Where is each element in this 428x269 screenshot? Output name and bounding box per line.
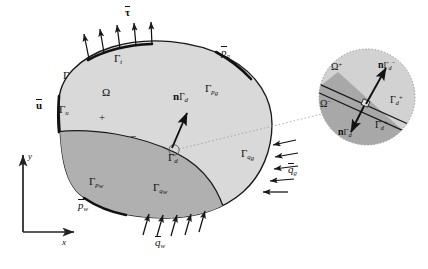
traction-load-label: τ [125, 6, 130, 18]
x-axis-label: x [62, 238, 66, 247]
inset-face-plus-label: Γd+ [390, 95, 402, 106]
water-pressure-load-label: pw [78, 199, 88, 213]
minus-side-label: − [130, 131, 136, 142]
discontinuity-label: Γd [168, 152, 178, 165]
displacement-load-label: u [36, 99, 42, 111]
inset-face-minus-label: Γd+ [375, 120, 387, 131]
water-flux-load-label: qw [155, 236, 165, 250]
plus-side-label: + [99, 112, 105, 123]
outer-boundary-label: Γ [63, 70, 69, 81]
normal-vector-label: nΓd [173, 91, 188, 104]
inset-group [300, 49, 426, 160]
water-flux-boundary-label: Γqw [153, 182, 167, 196]
inset-normal-upper-label: nΓd− [378, 60, 395, 71]
displacement-boundary-label: Γu [59, 104, 69, 117]
figure-root: τ Γt Γ Ω u Γu pg Γpg nΓd + − Γd Γqg qg [0, 0, 428, 269]
inset-lower-domain-label: Ω− [320, 99, 331, 109]
water-pressure-boundary-label: Γpw [89, 176, 103, 190]
traction-boundary-label: Γt [114, 53, 122, 66]
diagram-canvas [0, 0, 428, 269]
gas-pressure-boundary-label: Γpg [205, 83, 218, 97]
y-axis-label: y [28, 152, 32, 161]
inset-normal-lower-label: nΓd− [338, 127, 355, 138]
gas-pressure-load-label: pg [221, 46, 230, 60]
gas-flux-load-label: qg [288, 163, 297, 177]
domain-label: Ω [102, 87, 110, 98]
gas-flux-boundary-label: Γqg [241, 148, 254, 162]
inset-upper-domain-label: Ω+ [331, 62, 342, 72]
